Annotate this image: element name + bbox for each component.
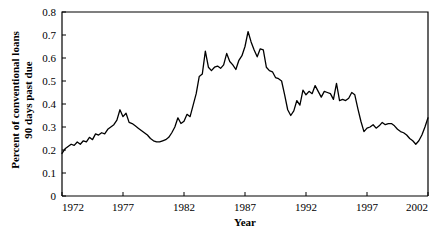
x-tick-label: 2002 [406,201,428,213]
y-tick-label: 0.7 [42,29,56,41]
y-tick-label: 0 [51,190,57,202]
x-tick-label: 1982 [173,201,195,213]
x-tick-label: 1972 [62,201,84,213]
x-tick-label: 1977 [112,201,135,213]
x-tick-label: 1992 [295,201,317,213]
y-tick-label: 0.1 [42,167,56,179]
x-tick-label: 1987 [234,201,257,213]
series-line [62,32,428,154]
x-axis-title: Year [62,216,428,228]
x-tick-label: 1997 [356,201,379,213]
axes [62,12,428,196]
y-tick-label: 0.2 [42,144,56,156]
y-tick-label: 0.3 [42,121,56,133]
data-series [62,32,428,154]
plot-area: 00.10.20.30.40.50.60.70.8 19721977198219… [0,0,447,238]
x-axis-ticks: 1972197719821987199219972002 [62,192,428,213]
chart-figure: Percent of conventional loans 90 days pa… [0,0,447,238]
y-axis-ticks: 00.10.20.30.40.50.60.70.8 [42,6,66,202]
y-tick-label: 0.5 [42,75,56,87]
y-tick-label: 0.8 [42,6,56,18]
y-tick-label: 0.6 [42,52,56,64]
y-tick-label: 0.4 [42,98,56,110]
